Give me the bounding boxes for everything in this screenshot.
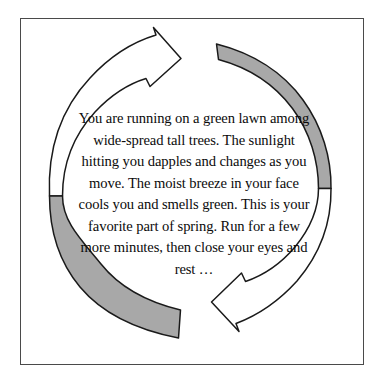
- cycle-body-text: You are running on a green lawn among wi…: [78, 108, 310, 280]
- figure-canvas: You are running on a green lawn among wi…: [0, 0, 386, 385]
